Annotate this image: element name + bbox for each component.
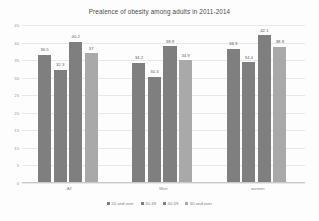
bar-column[interactable]: 36.5 [38,25,51,183]
legend-swatch-icon [107,202,110,205]
legend-label: 20-39 [145,201,156,206]
y-tick-label: 25 [14,93,19,98]
bar-group: 38.334.442.138.8 [227,25,289,183]
legend-swatch-icon [141,202,144,205]
legend-item[interactable]: 40-59 [163,201,178,206]
bar-column[interactable]: 37 [85,25,98,183]
legend-swatch-icon [185,202,188,205]
y-tick-label: 45 [14,23,19,28]
bar[interactable] [54,70,67,183]
bar-group: 34.230.338.934.9 [132,25,194,183]
x-category-label: Men [159,186,167,191]
y-tick-label: 10 [14,145,19,150]
bar-column[interactable]: 38.9 [163,25,176,183]
legend-swatch-icon [163,202,166,205]
bar-column[interactable]: 42.1 [258,25,271,183]
y-tick-label: 20 [14,110,19,115]
bar[interactable] [179,60,192,183]
bars-layer: 36.532.340.23734.230.338.934.938.334.442… [22,25,305,183]
x-category-label: All [67,186,72,191]
legend-label: 60 and over [190,201,212,206]
bar[interactable] [273,47,286,183]
bar[interactable] [132,63,145,183]
bar-column[interactable]: 30.3 [148,25,161,183]
legend-label: 40-59 [168,201,179,206]
y-tick-label: 35 [14,58,19,63]
y-tick-label: 15 [14,128,19,133]
x-category-label: women [251,186,265,191]
y-tick-label: 0 [17,181,19,186]
chart-title: Prealence of obesity among adults in 201… [0,8,319,15]
y-tick-label: 5 [17,163,19,168]
bar[interactable] [227,49,240,183]
bar[interactable] [163,46,176,183]
x-axis-line [22,182,305,183]
plot-area: 36.532.340.23734.230.338.934.938.334.442… [22,25,305,183]
chart-legend: 20 and over20-3940-5960 and over [0,201,319,206]
bar-column[interactable]: 34.2 [132,25,145,183]
bar[interactable] [148,77,161,183]
bar-value-label: 34.9 [166,53,206,58]
y-tick-label: 40 [14,40,19,45]
bar-column[interactable]: 34.9 [179,25,192,183]
legend-item[interactable]: 60 and over [185,201,212,206]
bar[interactable] [242,62,255,183]
legend-item[interactable]: 20 and over [107,201,134,206]
bar[interactable] [38,55,51,183]
bar-column[interactable]: 38.8 [273,25,286,183]
bar[interactable] [69,42,82,183]
bar-chart: Prealence of obesity among adults in 201… [0,0,319,221]
bar[interactable] [85,53,98,183]
y-axis: 051015202530354045 [0,25,22,183]
bar-group: 36.532.340.237 [38,25,100,183]
legend-label: 20 and over [112,201,134,206]
bar-column[interactable]: 32.3 [54,25,67,183]
x-axis: AllMenwomen [22,184,305,196]
bar-column[interactable]: 34.4 [242,25,255,183]
legend-item[interactable]: 20-39 [141,201,156,206]
bar[interactable] [258,35,271,183]
bar-value-label: 38.8 [260,39,300,44]
y-tick-label: 30 [14,75,19,80]
bar-value-label: 37 [71,46,111,51]
bar-column[interactable]: 38.3 [227,25,240,183]
